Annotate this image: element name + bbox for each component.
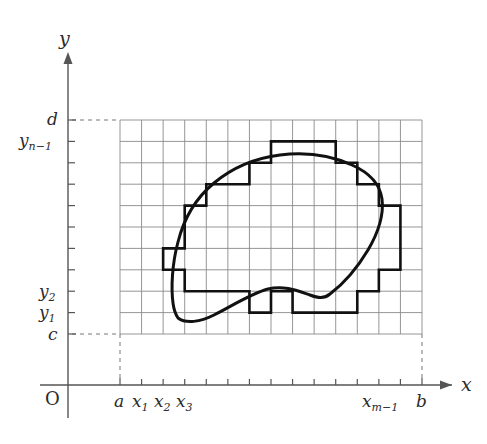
x-tick-label-x2: x2 xyxy=(154,393,171,413)
x-tick-label-b: b xyxy=(416,393,427,410)
dashed-guides xyxy=(72,120,422,381)
x-tick-label-x1: x1 xyxy=(132,393,149,413)
x-tick-label-x3: x3 xyxy=(176,393,193,413)
y-axis-arrowhead xyxy=(64,52,73,64)
label-origin: O xyxy=(45,390,60,408)
label-y-axis: y xyxy=(59,29,70,48)
x-tick-label-a: a xyxy=(114,393,124,410)
x-tick-label-xm1: xm−1 xyxy=(362,393,398,413)
y-tick-label-yn1: yn−1 xyxy=(19,132,52,152)
y-tick-label-c: c xyxy=(48,326,58,343)
y-tick-label-y2: y2 xyxy=(39,283,56,303)
y-tick-label-d: d xyxy=(47,111,58,128)
y-axis-ticks xyxy=(68,120,76,334)
axes xyxy=(40,55,452,418)
jordan-curve-grid-diagram xyxy=(0,0,487,444)
label-x-axis: x xyxy=(461,375,472,394)
x-axis-arrowhead xyxy=(440,381,452,390)
jordan-curve xyxy=(172,154,382,322)
x-axis-ticks xyxy=(120,378,422,385)
y-tick-label-y1: y1 xyxy=(39,304,56,324)
